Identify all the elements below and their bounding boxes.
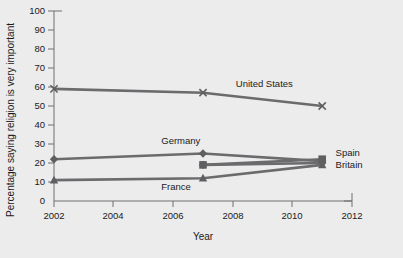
series-label-britain: Britain [336,159,363,170]
x-tick-2002: 2002 [43,210,64,221]
x-tick-2004: 2004 [102,210,123,221]
y-tick-70: 70 [34,62,45,73]
y-tick-50: 50 [34,100,45,111]
y-tick-20: 20 [34,157,45,168]
x-tick-2006: 2006 [162,210,183,221]
x-axis-title: Year [193,231,214,242]
y-tick-40: 40 [34,119,45,130]
y-tick-80: 80 [34,43,45,54]
y-tick-30: 30 [34,138,45,149]
series-label-spain: Spain [336,147,360,158]
chart-container: Percentage saying religion is very impor… [0,0,403,258]
y-axis-title: Percentage saying religion is very impor… [5,23,16,217]
x-tick-2012: 2012 [341,210,362,221]
y-tick-10: 10 [34,176,45,187]
y-tick-100: 100 [29,5,45,16]
series-label-united-states: United States [236,78,293,89]
y-axis-title-group: Percentage saying religion is very impor… [5,23,16,217]
series-label-germany: Germany [161,135,200,146]
y-tick-90: 90 [34,24,45,35]
line-chart: Percentage saying religion is very impor… [0,0,403,258]
series-label-france: France [161,181,191,192]
x-tick-2008: 2008 [222,210,243,221]
y-tick-60: 60 [34,81,45,92]
y-tick-0: 0 [40,195,45,206]
x-tick-2010: 2010 [281,210,302,221]
